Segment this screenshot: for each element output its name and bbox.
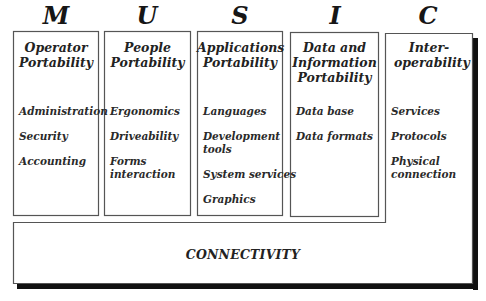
list-item: Security	[19, 130, 108, 143]
letter-i: I	[315, 2, 355, 30]
column-title: Applications Portability	[197, 40, 283, 70]
column-title: Data and Information Portability	[290, 40, 379, 85]
list-item: System services	[203, 168, 296, 181]
item-list: Languages Development tools System servi…	[203, 105, 296, 218]
list-item: Protocols	[391, 130, 453, 143]
column-people: People Portability Ergonomics Driveabili…	[104, 40, 191, 70]
list-item: Ergonomics	[110, 105, 180, 118]
list-item: Development tools	[203, 130, 273, 156]
connectivity-label: CONNECTIVITY	[13, 247, 473, 262]
list-item: Forms interaction	[110, 155, 170, 181]
list-item: Graphics	[203, 193, 296, 206]
column-data: Data and Information Portability Data ba…	[290, 40, 379, 85]
item-list: Services Protocols Physical connection	[391, 105, 453, 193]
list-item: Services	[391, 105, 453, 118]
list-item: Languages	[203, 105, 296, 118]
column-title: Inter-operability	[394, 40, 464, 70]
letter-m: M	[36, 2, 76, 30]
list-item: Administration	[19, 105, 108, 118]
letter-u: U	[127, 2, 167, 30]
column-title: People Portability	[104, 40, 191, 70]
item-list: Ergonomics Driveability Forms interactio…	[110, 105, 180, 193]
letter-c: C	[408, 2, 448, 30]
column-operator: Operator Portability Administration Secu…	[13, 40, 99, 70]
letter-s: S	[220, 2, 260, 30]
list-item: Physical connection	[391, 155, 453, 181]
list-item: Data base	[296, 105, 373, 118]
item-list: Administration Security Accounting	[19, 105, 108, 180]
column-interoperability: Inter-operability Services Protocols Phy…	[385, 40, 473, 70]
list-item: Driveability	[110, 130, 180, 143]
column-applications: Applications Portability Languages Devel…	[197, 40, 283, 70]
list-item: Accounting	[19, 155, 108, 168]
item-list: Data base Data formats	[296, 105, 373, 155]
list-item: Data formats	[296, 130, 373, 143]
column-title: Operator Portability	[13, 40, 99, 70]
shadow-right	[473, 38, 478, 290]
